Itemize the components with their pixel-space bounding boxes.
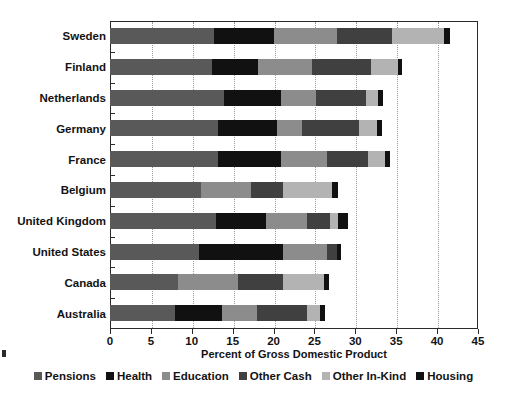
y-tick-label-canada: Canada: [0, 277, 106, 289]
legend-item-health[interactable]: Health: [106, 370, 152, 382]
bar-segment-other-cash: [302, 120, 359, 136]
bar-segment-pensions: [110, 28, 214, 44]
bar-segment-pensions: [110, 151, 218, 167]
bar-segment-housing: [378, 90, 383, 106]
legend-item-housing[interactable]: Housing: [416, 370, 473, 382]
legend-item-other-cash[interactable]: Other Cash: [239, 370, 312, 382]
bar-row: [110, 237, 478, 268]
x-axis-title: Percent of Gross Domestic Product: [110, 348, 478, 360]
y-axis-minor-tick: [110, 175, 115, 176]
legend-item-education[interactable]: Education: [162, 370, 229, 382]
y-axis-minor-tick: [110, 206, 115, 207]
y-axis-minor-tick: [110, 298, 115, 299]
stacked-bar: [110, 151, 390, 167]
bar-segment-education: [281, 151, 327, 167]
legend-item-pensions[interactable]: Pensions: [34, 370, 96, 382]
bar-segment-other-cash: [257, 305, 307, 321]
y-tick-label-united-states: United States: [0, 246, 106, 258]
legend-item-other-in-kind[interactable]: Other In-Kind: [322, 370, 406, 382]
bars-container: [110, 21, 478, 329]
y-axis-minor-tick: [110, 83, 115, 84]
bar-segment-pensions: [110, 59, 212, 75]
y-axis-minor-tick: [110, 267, 115, 268]
bar-segment-education: [281, 90, 316, 106]
legend-label: Housing: [427, 370, 473, 382]
bar-segment-health: [212, 59, 258, 75]
legend-label: Other In-Kind: [333, 370, 406, 382]
bar-segment-other-cash: [307, 213, 330, 229]
x-axis-ticks: 051015202530354045: [0, 329, 507, 339]
bar-segment-housing: [320, 305, 325, 321]
bar-segment-other-in-kind: [307, 305, 320, 321]
y-tick-label-netherlands: Netherlands: [0, 92, 106, 104]
bar-segment-health: [218, 151, 281, 167]
bar-segment-education: [277, 120, 302, 136]
bar-segment-housing: [444, 28, 450, 44]
y-axis-labels: SwedenFinlandNetherlandsGermanyFranceBel…: [0, 21, 106, 329]
bar-segment-education: [178, 274, 238, 290]
x-axis-tick-40: [437, 329, 438, 334]
bar-segment-health: [218, 120, 277, 136]
y-axis-minor-tick: [110, 237, 115, 238]
bar-segment-other-in-kind: [359, 120, 377, 136]
bar-segment-pensions: [110, 213, 216, 229]
bar-row: [110, 144, 478, 175]
bar-segment-education: [283, 244, 327, 260]
bar-segment-pensions: [110, 120, 218, 136]
bar-segment-health: [224, 90, 281, 106]
x-axis-tick-35: [396, 329, 397, 334]
bar-segment-pensions: [110, 305, 175, 321]
legend-label: Other Cash: [250, 370, 312, 382]
bar-row: [110, 21, 478, 52]
bar-segment-education: [222, 305, 257, 321]
x-axis-tick-20: [274, 329, 275, 334]
bar-segment-housing: [324, 274, 329, 290]
y-tick-label-australia: Australia: [0, 308, 106, 320]
y-tick-label-united-kingdom: United Kingdom: [0, 215, 106, 227]
x-axis-tick-5: [151, 329, 152, 334]
bar-segment-education: [266, 213, 307, 229]
x-axis-tick-15: [233, 329, 234, 334]
bar-segment-other-cash: [312, 59, 371, 75]
bar-row: [110, 52, 478, 83]
chart-legend: PensionsHealthEducationOther CashOther I…: [0, 370, 507, 382]
legend-label: Education: [173, 370, 229, 382]
bar-segment-pensions: [110, 274, 178, 290]
y-tick-label-sweden: Sweden: [0, 30, 106, 42]
x-tick-label-15: 15: [226, 335, 239, 348]
bar-segment-other-in-kind: [283, 274, 324, 290]
bar-segment-housing: [332, 182, 339, 198]
stacked-bar-chart: SwedenFinlandNetherlandsGermanyFranceBel…: [0, 0, 507, 395]
bar-segment-housing: [398, 59, 402, 75]
stacked-bar: [110, 120, 382, 136]
x-tick-label-0: 0: [107, 335, 113, 348]
bar-segment-other-cash: [327, 151, 368, 167]
stacked-bar: [110, 305, 325, 321]
bar-row: [110, 298, 478, 329]
bar-segment-health: [216, 213, 266, 229]
bar-row: [110, 267, 478, 298]
x-axis-tick-25: [314, 329, 315, 334]
stacked-bar: [110, 28, 450, 44]
x-tick-label-40: 40: [431, 335, 444, 348]
x-axis-tick-30: [355, 329, 356, 334]
x-axis-tick-0: [110, 329, 111, 334]
bar-segment-other-cash: [337, 28, 392, 44]
bar-segment-health: [175, 305, 222, 321]
bar-segment-education: [258, 59, 312, 75]
page-edge-artifact: [2, 350, 6, 357]
x-tick-label-25: 25: [308, 335, 321, 348]
y-tick-label-germany: Germany: [0, 123, 106, 135]
bar-segment-other-in-kind: [366, 90, 378, 106]
legend-swatch-icon: [239, 372, 247, 380]
bar-segment-other-cash: [327, 244, 338, 260]
bar-segment-other-in-kind: [330, 213, 338, 229]
bar-segment-pensions: [110, 182, 201, 198]
bar-segment-housing: [337, 244, 340, 260]
bar-segment-housing: [385, 151, 390, 167]
stacked-bar: [110, 213, 348, 229]
legend-label: Health: [117, 370, 152, 382]
bar-segment-other-cash: [251, 182, 283, 198]
x-axis-tick-45: [478, 329, 479, 334]
x-axis-tick-10: [192, 329, 193, 334]
